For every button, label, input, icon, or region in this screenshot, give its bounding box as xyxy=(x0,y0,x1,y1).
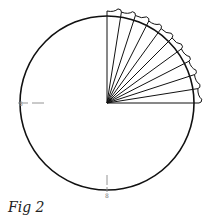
fan-spoke xyxy=(107,38,172,103)
fan-scalloped-edge xyxy=(107,9,121,12)
fan-spoke xyxy=(107,75,195,103)
left-mark: 8 xyxy=(18,100,44,107)
quarter-fan-spokes xyxy=(107,9,202,103)
figure-2-diagram: 88 xyxy=(0,0,208,223)
fan-spoke xyxy=(107,29,161,103)
figure-caption: Fig 2 xyxy=(8,199,45,215)
fan-spoke xyxy=(107,16,135,104)
fan-scalloped-edge xyxy=(135,16,149,22)
bottom-mark: 8 xyxy=(105,175,109,199)
fan-spoke xyxy=(107,49,181,103)
fan-scalloped-edge xyxy=(198,89,202,103)
fan-scalloped-edge xyxy=(121,12,135,16)
svg-text:8: 8 xyxy=(105,192,109,199)
fan-scalloped-edge xyxy=(189,61,196,74)
fan-scalloped-edge xyxy=(195,75,201,89)
registration-marks: 88 xyxy=(18,100,109,200)
svg-text:8: 8 xyxy=(19,100,23,107)
